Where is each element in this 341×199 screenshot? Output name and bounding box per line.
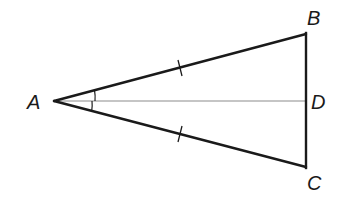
label-c: C xyxy=(307,172,322,194)
angle-arc-bad xyxy=(95,90,96,101)
label-d: D xyxy=(311,91,325,113)
triangle-diagram: A B C D xyxy=(0,0,341,199)
label-b: B xyxy=(307,7,320,29)
label-a: A xyxy=(26,91,40,113)
